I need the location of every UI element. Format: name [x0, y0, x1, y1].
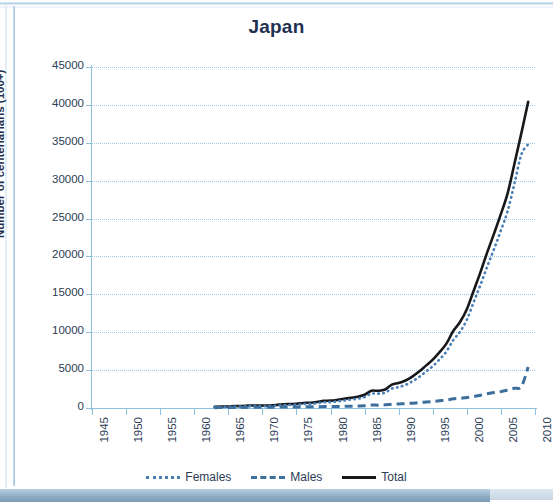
y-axis-tick-label: 15000	[26, 286, 84, 298]
y-axis-tick-label: 10000	[26, 324, 84, 336]
x-axis-line	[91, 408, 537, 409]
chart-page: Japan Number of centenarians (100+) 4500…	[0, 0, 553, 504]
legend-item-males: Males	[251, 470, 322, 484]
series-line-males	[215, 367, 529, 408]
y-axis-tick-label: 20000	[26, 248, 84, 260]
legend-item-females: Females	[146, 470, 231, 484]
x-axis-tick	[365, 409, 366, 415]
y-axis-tick-label: 45000	[26, 59, 84, 71]
y-axis-tick-label: 5000	[26, 362, 84, 374]
legend-item-total: Total	[342, 470, 406, 484]
x-axis-tick-label: 1995	[439, 417, 451, 465]
series-line-total	[215, 102, 529, 407]
x-axis-tick-label: 2000	[473, 417, 485, 465]
x-axis-tick-label: 1980	[337, 417, 349, 465]
page-edge-top-inner	[0, 6, 553, 8]
gridline	[92, 105, 535, 106]
x-axis-tick-label: 1990	[405, 417, 417, 465]
x-axis-tick-label: 1960	[200, 417, 212, 465]
x-axis-tick	[228, 409, 229, 415]
y-axis-tick-label: 35000	[26, 135, 84, 147]
x-axis-tick-label: 2005	[507, 417, 519, 465]
gridline	[92, 294, 535, 295]
x-axis-tick	[262, 409, 263, 415]
gridline	[92, 256, 535, 257]
page-edge-left	[13, 6, 15, 486]
x-axis-tick	[535, 409, 536, 415]
gridline	[92, 370, 535, 371]
x-axis-tick	[160, 409, 161, 415]
x-axis-tick	[399, 409, 400, 415]
x-axis-tick	[194, 409, 195, 415]
x-axis-tick	[467, 409, 468, 415]
legend-swatch-males-icon	[251, 472, 285, 482]
series-line-females	[215, 144, 529, 407]
legend-label-females: Females	[185, 470, 231, 484]
y-axis-line	[91, 65, 92, 410]
x-axis-tick-label: 1945	[98, 417, 110, 465]
gridline	[92, 219, 535, 220]
x-axis-tick	[501, 409, 502, 415]
chart-legend: Females Males Total	[0, 470, 553, 484]
gridline	[92, 143, 535, 144]
x-axis-tick-label: 1955	[166, 417, 178, 465]
y-axis-tick-label: 30000	[26, 173, 84, 185]
x-axis-tick	[296, 409, 297, 415]
x-axis-tick-label: 1950	[132, 417, 144, 465]
page-edge-top	[0, 2, 553, 5]
gridline	[92, 181, 535, 182]
page-edge-bottom	[0, 489, 490, 502]
x-axis-tick-label: 1965	[234, 417, 246, 465]
legend-label-males: Males	[290, 470, 322, 484]
x-axis-tick-label: 1970	[268, 417, 280, 465]
y-axis-title: Number of centenarians (100+)	[0, 70, 6, 238]
x-axis-tick	[126, 409, 127, 415]
x-axis-tick	[92, 409, 93, 415]
gridline	[92, 67, 535, 68]
gridline	[92, 332, 535, 333]
chart-title: Japan	[0, 16, 553, 38]
y-axis-tick-label: 25000	[26, 211, 84, 223]
x-axis-tick-label: 1985	[371, 417, 383, 465]
legend-swatch-females-icon	[146, 472, 180, 482]
legend-swatch-total-icon	[342, 472, 376, 482]
y-axis-tick-label: 40000	[26, 97, 84, 109]
legend-label-total: Total	[381, 470, 406, 484]
x-axis-tick-label: 1975	[302, 417, 314, 465]
page-edge-bottom-right	[490, 489, 553, 500]
x-axis-tick	[433, 409, 434, 415]
x-axis-tick	[331, 409, 332, 415]
y-axis-tick-label: 0	[26, 400, 84, 412]
x-axis-tick-label: 2010	[541, 417, 553, 465]
